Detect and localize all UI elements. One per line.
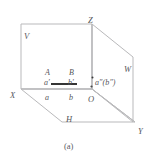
plane-label-h: H (66, 115, 72, 124)
point-label-b-prime: b′ (68, 79, 74, 87)
profile-projection-point-dot (92, 77, 94, 79)
point-label-b-horizontal: b (69, 94, 73, 102)
origin-point-dot (90, 85, 92, 87)
figure-caption: (a) (64, 141, 73, 151)
horizontal-plane-outline (21, 89, 135, 122)
plane-label-v: V (24, 32, 29, 41)
point-label-a-horizontal: a (45, 94, 49, 102)
projection-system-drawing (0, 0, 152, 161)
figure-container: V H W X Y Z O A B a′ b′ a b a″(b″) (a) (0, 0, 152, 161)
y-axis-line (92, 89, 135, 122)
plane-label-w: W (124, 65, 131, 74)
axis-label-x: X (10, 91, 15, 100)
point-label-a-prime: a′ (44, 79, 50, 87)
point-label-b: B (69, 69, 74, 77)
point-label-a-b-double-prime: a″(b″) (95, 79, 116, 87)
axis-label-o: O (88, 95, 94, 104)
axis-label-z: Z (88, 16, 93, 25)
frontal-plane-outline (21, 24, 92, 89)
axis-label-y: Y (138, 127, 143, 136)
point-label-a: A (45, 69, 50, 77)
